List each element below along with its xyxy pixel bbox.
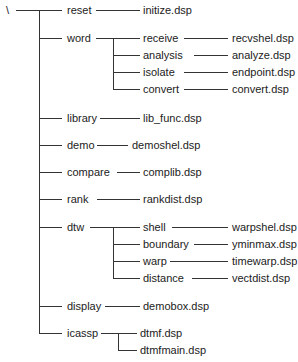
tree-node-dtw: dtw	[67, 221, 84, 233]
tree-node-endpoint: endpoint.dsp	[232, 66, 295, 78]
tree-node-demo: demo	[67, 139, 95, 151]
tree-node-library: library	[67, 112, 97, 124]
tree-node-isolate: isolate	[143, 66, 175, 78]
tree-node-distance: distance	[143, 272, 184, 284]
tree-node-compare: compare	[67, 166, 110, 178]
tree-node-convert: convert	[143, 83, 179, 95]
tree-node-word: word	[67, 32, 91, 44]
root-directory-label: \	[6, 4, 9, 16]
tree-node-vectdist: vectdist.dsp	[232, 272, 290, 284]
tree-node-dtmfmain: dtmfmain.dsp	[140, 344, 206, 356]
tree-node-convertdsp: convert.dsp	[232, 83, 289, 95]
tree-node-analysis: analysis	[143, 49, 183, 61]
tree-node-boundary: boundary	[143, 238, 189, 250]
tree-node-recvshel: recvshel.dsp	[232, 32, 294, 44]
tree-node-dtmf: dtmf.dsp	[140, 327, 182, 339]
tree-node-analyze: analyze.dsp	[232, 49, 291, 61]
tree-node-reset: reset	[67, 4, 91, 16]
tree-node-yminmax: yminmax.dsp	[232, 238, 297, 250]
tree-node-receive: receive	[143, 32, 178, 44]
tree-node-rankdist: rankdist.dsp	[143, 193, 202, 205]
tree-node-timewarp: timewarp.dsp	[232, 255, 297, 267]
tree-node-demobox: demobox.dsp	[143, 300, 209, 312]
tree-node-display: display	[67, 300, 101, 312]
tree-node-rank: rank	[67, 193, 88, 205]
tree-node-shell: shell	[143, 221, 166, 233]
tree-node-warp: warp	[143, 255, 167, 267]
tree-node-complib: complib.dsp	[143, 166, 202, 178]
tree-node-demoshel: demoshel.dsp	[132, 139, 201, 151]
tree-node-initize: initize.dsp	[143, 4, 192, 16]
tree-node-warpshel: warpshel.dsp	[232, 221, 297, 233]
tree-node-icassp: icassp	[67, 327, 98, 339]
tree-node-lib_func: lib_func.dsp	[143, 112, 202, 124]
